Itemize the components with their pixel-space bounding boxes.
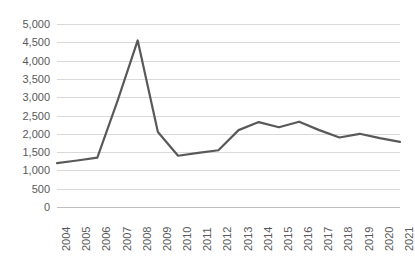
data-series-line bbox=[57, 24, 400, 207]
y-axis-tick-label: 4,500 bbox=[0, 37, 50, 48]
x-axis-tick-label: 2013 bbox=[243, 227, 254, 251]
y-axis-tick-label: 2,500 bbox=[0, 111, 50, 122]
y-axis-tick-label: 3,500 bbox=[0, 74, 50, 85]
x-axis-tick-label: 2006 bbox=[101, 227, 112, 251]
x-axis-tick-label: 2010 bbox=[182, 227, 193, 251]
plot-area bbox=[57, 24, 400, 207]
x-axis-line bbox=[57, 207, 400, 208]
y-axis-tick-label: 500 bbox=[0, 184, 50, 195]
y-axis-tick-label: 0 bbox=[0, 202, 50, 213]
x-axis-tick-label: 2005 bbox=[81, 227, 92, 251]
x-axis-tick-label: 2014 bbox=[263, 227, 274, 251]
y-axis-tick-label: 3,000 bbox=[0, 92, 50, 103]
y-axis-tick-labels: 05001,0001,5002,0002,5003,0003,5004,0004… bbox=[0, 24, 50, 207]
x-axis-tick-label: 2018 bbox=[343, 227, 354, 251]
x-axis-tick-label: 2015 bbox=[283, 227, 294, 251]
y-axis-tick-label: 4,000 bbox=[0, 56, 50, 67]
y-axis-tick-label: 2,000 bbox=[0, 129, 50, 140]
x-axis-tick-label: 2004 bbox=[61, 227, 72, 251]
x-axis-tick-label: 2012 bbox=[222, 227, 233, 251]
x-axis-tick-label: 2016 bbox=[303, 227, 314, 251]
x-axis-tick-label: 2011 bbox=[202, 227, 213, 251]
x-axis-tick-label: 2017 bbox=[323, 227, 334, 251]
series-1-polyline bbox=[57, 40, 400, 163]
x-axis-tick-label: 2008 bbox=[142, 227, 153, 251]
y-axis-tick-label: 1,000 bbox=[0, 165, 50, 176]
x-axis-tick-label: 2019 bbox=[364, 227, 375, 251]
y-axis-tick-label: 5,000 bbox=[0, 19, 50, 30]
x-axis-tick-label: 2009 bbox=[162, 227, 173, 251]
x-axis-tick-labels: 2004200520062007200820092010201120122013… bbox=[57, 210, 400, 256]
x-axis-tick-label: 2007 bbox=[122, 227, 133, 251]
x-axis-tick-label: 2020 bbox=[384, 227, 395, 251]
x-axis-tick-label: 2021 bbox=[404, 227, 415, 251]
y-axis-tick-label: 1,500 bbox=[0, 147, 50, 158]
